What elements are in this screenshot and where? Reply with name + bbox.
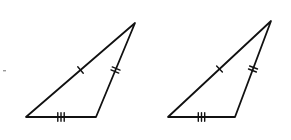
right-triangle [168, 21, 271, 121]
congruent-triangles-figure [0, 0, 291, 140]
stray-mark [3, 70, 6, 71]
figure-svg [0, 0, 291, 140]
left-triangle [26, 23, 135, 121]
